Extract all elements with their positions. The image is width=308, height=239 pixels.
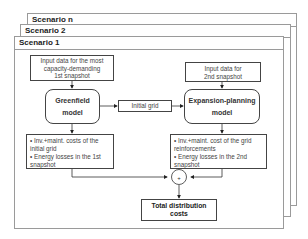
text: Input data for the most [31,57,113,65]
total-costs-box: Total distribution costs [141,199,217,221]
text: model [46,107,99,119]
greenfield-output-box: • Inv.+maint. costs of the initial grid … [26,134,114,169]
text: Greenfield [46,95,99,107]
text: Total distribution [142,202,216,210]
text: 2nd snapshot [186,73,260,81]
text: Expansion-planning [185,95,259,107]
greenfield-input-box: Input data for the most capacity-demandi… [30,55,114,81]
initial-grid-box: Initial grid [118,100,172,112]
list-item: • Inv.+maint. costs of the initial grid [30,137,110,152]
expansion-planning-model: Expansion-planning model [184,89,260,124]
expansion-input-box: Input data for 2nd snapshot [185,62,261,82]
greenfield-model: Greenfield model [45,89,100,124]
sum-node: + [177,175,181,181]
list-item: • Energy losses in the 2nd snapshot [174,153,263,168]
text: Initial grid [132,102,159,109]
text: Input data for [186,65,260,73]
list-item: • Energy losses in the 1st snapshot [30,153,110,168]
text: costs [142,210,216,218]
text: model [185,107,259,119]
expansion-output-box: • Inv.+maint. cost of the grid reinforce… [170,134,267,169]
text: 1st snapshot [31,72,113,80]
text: capacity-demanding [31,65,113,73]
list-item: • Inv.+maint. cost of the grid reinforce… [174,137,263,152]
